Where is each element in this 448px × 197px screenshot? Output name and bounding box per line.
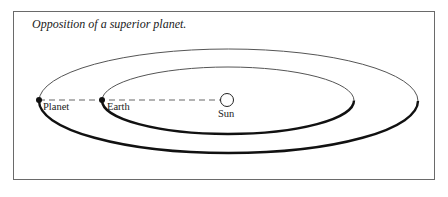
sun-label: Sun: [218, 108, 235, 119]
planet-label: Planet: [43, 101, 69, 112]
sun-icon: [221, 94, 234, 107]
earth-label: Earth: [107, 101, 130, 112]
earth-dot: [99, 97, 105, 103]
planet-dot: [36, 97, 42, 103]
orbit-diagram: Planet Earth Sun: [0, 0, 448, 197]
